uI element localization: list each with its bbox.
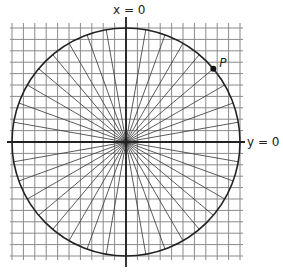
horizontal-axis-label: y = 0: [247, 135, 279, 149]
point-p-label: P: [219, 56, 227, 70]
point-p-marker: [210, 66, 216, 72]
vertical-axis-label: x = 0: [113, 3, 145, 17]
polar-circle-diagram: x = 0 y = 0 P: [0, 0, 283, 275]
